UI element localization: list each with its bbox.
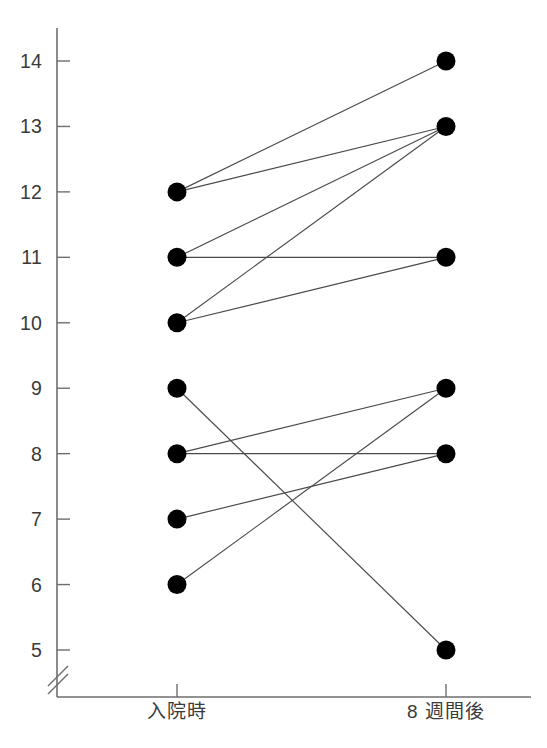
data-point-admission (168, 313, 187, 332)
series-line (177, 388, 446, 453)
data-point-week8 (437, 248, 456, 267)
axis-break-icon (48, 666, 68, 694)
data-point-admission (168, 248, 187, 267)
x-tick-label-week8: 8 週間後 (407, 701, 485, 723)
series-line (177, 388, 446, 584)
data-point-admission (168, 575, 187, 594)
series-line (177, 388, 446, 650)
data-point-admission (168, 510, 187, 529)
data-point-week8 (437, 444, 456, 463)
series-line (177, 126, 446, 322)
chart-canvas (0, 0, 547, 748)
series-line (177, 257, 446, 322)
series-line (177, 126, 446, 191)
data-point-admission (168, 182, 187, 201)
series-line (177, 61, 446, 192)
figure-paired-line-chart: 567891011121314 入院時 8 週間後 (0, 0, 547, 748)
data-point-week8 (437, 379, 456, 398)
data-point-week8 (437, 117, 456, 136)
x-tick-label-admission: 入院時 (147, 701, 207, 723)
data-point-week8 (437, 52, 456, 71)
series-lines (177, 61, 446, 650)
series-line (177, 126, 446, 257)
data-point-week8 (437, 641, 456, 660)
data-point-admission (168, 444, 187, 463)
y-axis-ticks (57, 61, 70, 650)
x-axis-ticks (177, 684, 446, 697)
axes (57, 28, 531, 697)
data-point-admission (168, 379, 187, 398)
